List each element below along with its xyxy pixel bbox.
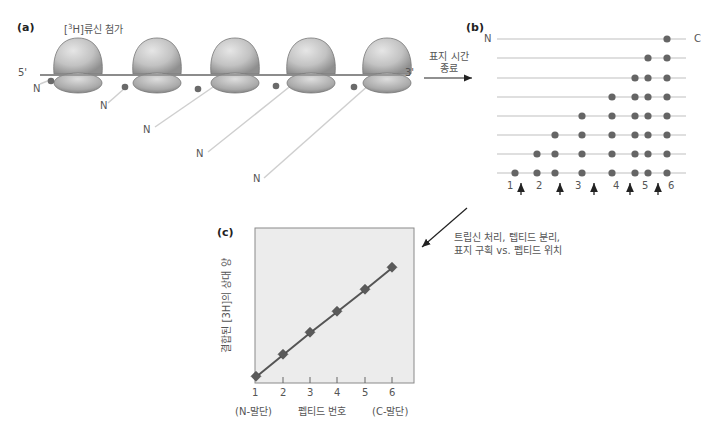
label-dot bbox=[511, 169, 518, 176]
ribosome-5 bbox=[363, 38, 412, 93]
peptide-number: 3 bbox=[575, 180, 581, 191]
label-dot bbox=[663, 150, 670, 157]
n-end-label: N bbox=[484, 33, 491, 44]
n-terminus-label: N bbox=[33, 83, 40, 94]
three-prime-label: 3' bbox=[405, 67, 414, 78]
ribosome-4 bbox=[287, 38, 336, 93]
label-dot bbox=[608, 131, 615, 138]
x-tick-label: 3 bbox=[307, 387, 313, 398]
ribosome-3 bbox=[211, 38, 260, 93]
arrow-bc-line2: 표지 구획 vs. 펩티드 위치 bbox=[454, 244, 562, 257]
y-axis-label: 결합된 [3H]의 상대 양 bbox=[218, 246, 233, 366]
label-dot bbox=[631, 131, 638, 138]
label-dot bbox=[663, 54, 670, 61]
label-dot bbox=[663, 169, 670, 176]
label-dot bbox=[608, 150, 615, 157]
nascent-chains bbox=[40, 80, 370, 178]
ribosome-2 bbox=[133, 38, 182, 93]
x-left-note: (N-말단) bbox=[235, 403, 272, 418]
label-dot bbox=[533, 150, 540, 157]
label-dot bbox=[663, 35, 670, 42]
label-dot bbox=[551, 131, 558, 138]
peptide-dots bbox=[511, 35, 670, 176]
panel-a-label: (a) bbox=[17, 21, 34, 34]
x-tick-label: 2 bbox=[280, 387, 286, 398]
label-dot bbox=[631, 169, 638, 176]
peptide-number: 4 bbox=[613, 180, 619, 191]
label-dot bbox=[644, 112, 651, 119]
title-rest: H]류신 첨가 bbox=[72, 24, 123, 35]
label-dot bbox=[663, 93, 670, 100]
label-dot bbox=[644, 54, 651, 61]
label-dot bbox=[551, 169, 558, 176]
label-dot bbox=[644, 150, 651, 157]
label-dot bbox=[644, 131, 651, 138]
arrow-ab-line2: 종료 bbox=[424, 63, 474, 75]
plot-area bbox=[255, 228, 414, 383]
c-end-label: C bbox=[694, 33, 701, 44]
n-terminus-label: N bbox=[196, 148, 203, 159]
n-terminus-label: N bbox=[100, 100, 107, 111]
arrow-bc-caption: 트립신 처리, 텝티드 분리, 표지 구획 vs. 펩티드 위치 bbox=[454, 231, 562, 257]
arrow-bc-line1: 트립신 처리, 텝티드 분리, bbox=[454, 231, 562, 244]
x-tick-label: 6 bbox=[389, 387, 395, 398]
panel-a-title: [3H]류신 첨가 bbox=[64, 21, 123, 36]
five-prime-label: 5' bbox=[18, 67, 27, 78]
label-dot bbox=[631, 112, 638, 119]
label-dot bbox=[663, 131, 670, 138]
x-axis-label: 펩티드 번호 bbox=[298, 403, 346, 418]
ribosomes bbox=[54, 38, 412, 93]
label-dot bbox=[644, 74, 651, 81]
panel-b-label: (b) bbox=[466, 21, 484, 34]
peptide-number: 5 bbox=[642, 180, 648, 191]
x-tick-label: 4 bbox=[334, 387, 340, 398]
label-dot bbox=[533, 169, 540, 176]
x-tick-label: 1 bbox=[252, 387, 258, 398]
panel-c-label: (c) bbox=[217, 226, 234, 239]
label-dot bbox=[608, 169, 615, 176]
peptide-number: 2 bbox=[536, 180, 542, 191]
n-terminus-label: N bbox=[143, 124, 150, 135]
label-dot bbox=[608, 93, 615, 100]
arrow-ab-line1: 표지 시간 bbox=[424, 51, 474, 63]
label-dot bbox=[578, 169, 585, 176]
x-right-note: (C-말단) bbox=[372, 403, 408, 418]
figure-canvas bbox=[0, 0, 719, 431]
label-dot bbox=[663, 74, 670, 81]
peptide-lines bbox=[497, 39, 686, 173]
label-dot bbox=[631, 74, 638, 81]
label-dot bbox=[631, 93, 638, 100]
n-terminus-label: N bbox=[253, 173, 260, 184]
ribosome-1 bbox=[54, 38, 103, 93]
label-dot bbox=[644, 93, 651, 100]
label-dot bbox=[663, 112, 670, 119]
label-dot bbox=[631, 150, 638, 157]
label-dot bbox=[578, 150, 585, 157]
label-dot bbox=[551, 150, 558, 157]
label-dot bbox=[608, 112, 615, 119]
peptide-number: 1 bbox=[507, 180, 513, 191]
peptide-number: 6 bbox=[668, 180, 674, 191]
arrow-ab-caption: 표지 시간 종료 bbox=[424, 51, 474, 75]
label-dot bbox=[578, 131, 585, 138]
label-dot bbox=[578, 112, 585, 119]
x-tick-label: 5 bbox=[362, 387, 368, 398]
label-dot bbox=[644, 169, 651, 176]
